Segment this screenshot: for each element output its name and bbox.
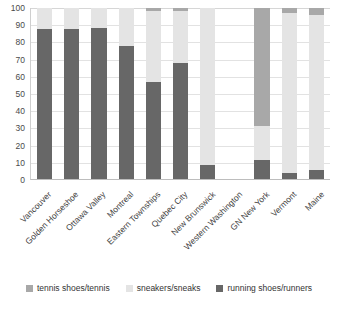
legend-item[interactable]: sneakers/sneaks: [126, 284, 201, 293]
stacked-bar-chart: 0102030405060708090100 VancouverGolden H…: [0, 0, 338, 314]
bar-slot: [85, 8, 112, 179]
y-axis-tick-label: 10: [16, 159, 25, 168]
plot-wrapper: 0102030405060708090100: [0, 8, 338, 190]
bar-segment[interactable]: [309, 8, 324, 15]
bar-slot: [249, 8, 276, 179]
y-axis-tick-label: 60: [16, 73, 25, 82]
bar-series-container: [31, 8, 330, 179]
bar-segment[interactable]: [64, 29, 79, 179]
bar-segment[interactable]: [254, 160, 269, 179]
bar-segment[interactable]: [37, 29, 52, 179]
y-axis-tick-label: 90: [16, 21, 25, 30]
bar-column[interactable]: [37, 8, 52, 179]
bar-slot: [167, 8, 194, 179]
y-axis-tick-label: 80: [16, 38, 25, 47]
bar-segment[interactable]: [146, 11, 161, 82]
legend-label: sneakers/sneaks: [137, 284, 201, 293]
bar-segment[interactable]: [254, 8, 269, 126]
bar-segment[interactable]: [309, 15, 324, 171]
bar-column[interactable]: [146, 8, 161, 179]
bar-segment[interactable]: [282, 173, 297, 179]
bar-segment[interactable]: [200, 8, 215, 165]
y-axis-tick-label: 100: [11, 4, 25, 13]
bar-segment[interactable]: [146, 82, 161, 179]
legend-swatch-icon: [126, 285, 133, 292]
bar-segment[interactable]: [173, 11, 188, 62]
bar-slot: [303, 8, 330, 179]
y-axis-tick-label: 30: [16, 124, 25, 133]
bar-segment[interactable]: [91, 28, 106, 179]
y-axis-tick-label: 70: [16, 56, 25, 65]
legend-item[interactable]: running shoes/runners: [216, 284, 312, 293]
bar-slot: [221, 8, 248, 179]
bar-segment[interactable]: [173, 63, 188, 179]
bar-segment[interactable]: [91, 8, 106, 28]
chart-legend: tennis shoes/tennissneakers/sneaksrunnin…: [0, 284, 338, 293]
bar-slot: [194, 8, 221, 179]
bar-segment[interactable]: [309, 170, 324, 179]
bar-column[interactable]: [282, 8, 297, 179]
bar-slot: [140, 8, 167, 179]
bar-column[interactable]: [119, 8, 134, 179]
y-axis-tick-label: 0: [20, 176, 25, 185]
legend-swatch-icon: [26, 285, 33, 292]
bar-segment[interactable]: [37, 8, 52, 29]
y-axis-tick-label: 20: [16, 142, 25, 151]
bar-column[interactable]: [309, 8, 324, 179]
bar-segment[interactable]: [119, 46, 134, 179]
bar-slot: [31, 8, 58, 179]
bar-segment[interactable]: [200, 165, 215, 179]
y-axis: 0102030405060708090100: [0, 8, 28, 190]
bar-segment[interactable]: [119, 8, 134, 46]
bar-segment[interactable]: [254, 126, 269, 160]
bar-slot: [113, 8, 140, 179]
bar-slot: [276, 8, 303, 179]
bar-column[interactable]: [91, 8, 106, 179]
x-axis-tick-label: Vermont: [270, 190, 299, 219]
legend-item[interactable]: tennis shoes/tennis: [26, 284, 110, 293]
bar-slot: [58, 8, 85, 179]
x-axis-labels: VancouverGolden HorseshoeOttawa ValleyMo…: [30, 190, 330, 260]
legend-swatch-icon: [216, 285, 223, 292]
bar-column[interactable]: [254, 8, 269, 179]
plot-area: [30, 8, 330, 180]
legend-label: running shoes/runners: [227, 284, 312, 293]
bar-segment[interactable]: [282, 13, 297, 173]
y-axis-tick-label: 50: [16, 90, 25, 99]
bar-column[interactable]: [200, 8, 215, 179]
x-axis-tick-label: Maine: [303, 190, 326, 213]
y-axis-tick-label: 40: [16, 107, 25, 116]
bar-column[interactable]: [173, 8, 188, 179]
bar-segment[interactable]: [64, 8, 79, 29]
legend-label: tennis shoes/tennis: [37, 284, 110, 293]
bar-column[interactable]: [64, 8, 79, 179]
